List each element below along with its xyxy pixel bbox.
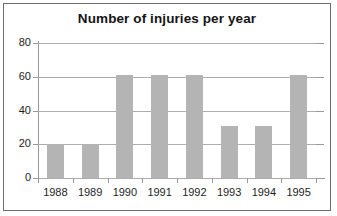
y-tick-label: 40 <box>0 105 31 116</box>
y-tick-mark-right <box>316 111 324 112</box>
y-tick-mark <box>33 111 38 112</box>
x-tick-label: 1995 <box>279 186 319 198</box>
bar <box>82 144 99 178</box>
x-tick-mark <box>212 178 213 183</box>
bar <box>255 126 272 178</box>
y-tick-label: 60 <box>0 71 31 82</box>
y-tick-mark <box>33 77 38 78</box>
y-tick-label: 0 <box>0 172 31 183</box>
bar <box>151 75 168 178</box>
x-tick-mark <box>177 178 178 183</box>
x-tick-mark <box>281 178 282 183</box>
chart-screenshot: Number of injuries per year 020406080 19… <box>0 0 337 216</box>
y-tick-mark-right <box>316 144 324 145</box>
x-tick-mark <box>73 178 74 183</box>
y-tick-mark <box>33 43 38 44</box>
bar <box>47 144 64 178</box>
bar <box>186 75 203 178</box>
gridline-y <box>38 77 316 78</box>
gridline-y <box>38 144 316 145</box>
gridline-y <box>38 111 316 112</box>
chart-title: Number of injuries per year <box>8 11 326 26</box>
y-tick-mark <box>33 144 38 145</box>
y-tick-label: 20 <box>0 138 31 149</box>
bar <box>116 75 133 178</box>
y-tick-mark-right <box>316 43 324 44</box>
x-tick-mark <box>316 178 317 183</box>
y-tick-label: 80 <box>0 37 31 48</box>
bar <box>221 126 238 178</box>
y-tick-mark-right <box>316 77 324 78</box>
x-tick-mark <box>38 178 39 183</box>
plot-area <box>38 43 316 178</box>
x-tick-mark <box>108 178 109 183</box>
gridline-y <box>38 43 316 44</box>
x-tick-mark <box>142 178 143 183</box>
y-tick-mark-right <box>316 178 324 179</box>
x-tick-mark <box>247 178 248 183</box>
bar <box>290 75 307 178</box>
